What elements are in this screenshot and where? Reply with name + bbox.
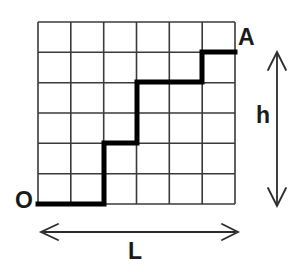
- origin-label-o: O: [15, 189, 33, 212]
- height-dimension-arrow: [268, 52, 286, 206]
- length-label-l: L: [128, 240, 142, 263]
- lattice-path-figure: A O h L: [0, 0, 303, 272]
- height-label-h: h: [256, 104, 270, 127]
- figure-canvas: [0, 0, 303, 272]
- endpoint-label-a: A: [238, 26, 255, 49]
